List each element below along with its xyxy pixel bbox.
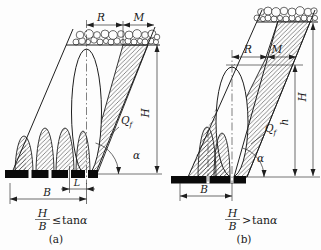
- dim-label-M: M: [133, 11, 145, 23]
- figure-a-draw-dome-2: [36, 128, 54, 174]
- figure-b-rubble-rocks: [254, 7, 318, 22]
- dim-label-R: R: [243, 43, 252, 55]
- qf-label: Qf: [121, 114, 134, 129]
- dim-label-B: B: [42, 186, 51, 198]
- dim-label-M: M: [271, 43, 283, 55]
- svg-text:H: H: [37, 207, 48, 220]
- figure-b-caption: (b): [237, 233, 252, 245]
- svg-text:tan: tan: [252, 214, 270, 227]
- svg-text:α: α: [80, 214, 88, 227]
- figure-a-caption: (a): [49, 233, 63, 245]
- alpha-label: α: [257, 152, 264, 164]
- figure-b-formula: H B > tan α: [225, 207, 278, 233]
- figure-a-draw-dome-3: [56, 128, 74, 174]
- figure-a-formula: H B ≤ tan α: [35, 207, 88, 233]
- alpha-label: α: [133, 149, 140, 161]
- diagram-canvas: R M H B L α Qf H B ≤ tan α (a): [0, 0, 321, 250]
- qf-label: Qf: [265, 122, 278, 137]
- svg-text:α: α: [270, 214, 278, 227]
- figure-a-draw-dome-1: [15, 136, 33, 174]
- figure-b: R M h H B α Qf H B > tan α (b): [171, 7, 320, 245]
- dim-label-h: h: [278, 119, 290, 126]
- svg-text:H: H: [227, 207, 238, 220]
- dim-label-H: H: [139, 108, 151, 119]
- dim-label-R: R: [96, 11, 105, 23]
- svg-text:tan: tan: [62, 214, 80, 227]
- dim-label-L: L: [73, 177, 80, 188]
- svg-text:≤: ≤: [52, 214, 61, 227]
- figure-a-rubble-rocks: [73, 30, 160, 45]
- svg-text:B: B: [227, 220, 236, 233]
- dim-label-H: H: [296, 92, 308, 103]
- dim-label-B: B: [199, 183, 208, 195]
- svg-text:B: B: [37, 220, 46, 233]
- figure-a: R M H B L α Qf H B ≤ tan α (a): [5, 11, 162, 245]
- mining-draw-diagram: R M H B L α Qf H B ≤ tan α (a): [0, 0, 321, 250]
- svg-text:>: >: [242, 214, 251, 227]
